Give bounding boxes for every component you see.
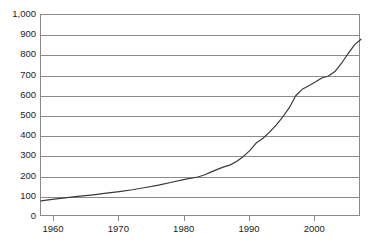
y-tick-label: 300 bbox=[0, 150, 36, 160]
y-tick-label: 500 bbox=[0, 110, 36, 120]
line-chart: 01002003004005006007008009001,000 196019… bbox=[0, 0, 376, 245]
x-tick-label: 1960 bbox=[42, 223, 63, 235]
x-tick-label: 1990 bbox=[238, 223, 259, 235]
x-tick-label: 1980 bbox=[173, 223, 194, 235]
y-tick-label: 400 bbox=[0, 130, 36, 140]
series-line-group bbox=[41, 15, 361, 217]
x-tick-mark bbox=[118, 216, 119, 221]
x-tick-mark bbox=[53, 216, 54, 221]
x-axis-ticks bbox=[0, 216, 376, 222]
series-1-line bbox=[41, 39, 361, 201]
y-axis: 01002003004005006007008009001,000 bbox=[0, 0, 36, 245]
x-tick-mark bbox=[314, 216, 315, 221]
y-tick-label: 900 bbox=[0, 29, 36, 39]
x-tick-mark bbox=[184, 216, 185, 221]
plot-area bbox=[40, 14, 360, 216]
x-tick-label: 1970 bbox=[108, 223, 129, 235]
y-tick-label: 100 bbox=[0, 191, 36, 201]
y-tick-label: 600 bbox=[0, 90, 36, 100]
x-tick-mark bbox=[249, 216, 250, 221]
x-axis: 19601970198019902000 bbox=[0, 223, 376, 237]
y-tick-label: 700 bbox=[0, 70, 36, 80]
y-tick-label: 800 bbox=[0, 49, 36, 59]
y-tick-label: 1,000 bbox=[0, 9, 36, 19]
x-tick-label: 2000 bbox=[304, 223, 325, 235]
y-tick-label: 200 bbox=[0, 171, 36, 181]
